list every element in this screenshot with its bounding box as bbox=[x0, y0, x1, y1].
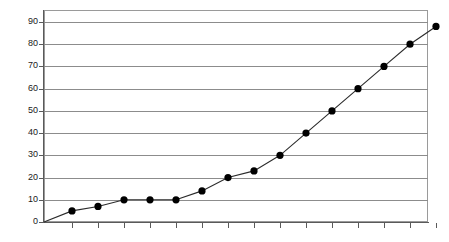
x-tick-mark-15 bbox=[436, 223, 437, 228]
x-tick-mark-5 bbox=[176, 223, 177, 228]
y-tick-label-0: 0 bbox=[12, 217, 38, 226]
y-axis-line bbox=[43, 10, 44, 223]
y-tick-label-50: 50 bbox=[12, 106, 38, 115]
x-tick-mark-2 bbox=[98, 223, 99, 228]
plot-area bbox=[44, 10, 428, 222]
x-tick-mark-8 bbox=[254, 223, 255, 228]
y-axis-tick-labels: 0102030405060708090 bbox=[8, 0, 38, 242]
x-tick-mark-7 bbox=[228, 223, 229, 228]
gridline-60 bbox=[44, 89, 428, 90]
gridline-50 bbox=[44, 111, 428, 112]
x-tick-mark-6 bbox=[202, 223, 203, 228]
x-tick-mark-4 bbox=[150, 223, 151, 228]
x-tick-mark-14 bbox=[410, 223, 411, 228]
y-tick-label-60: 60 bbox=[12, 84, 38, 93]
gridline-80 bbox=[44, 44, 428, 45]
gridline-10 bbox=[44, 200, 428, 201]
y-tick-label-90: 90 bbox=[12, 17, 38, 26]
x-tick-mark-3 bbox=[124, 223, 125, 228]
y-tick-label-70: 70 bbox=[12, 61, 38, 70]
gridline-70 bbox=[44, 66, 428, 67]
x-axis-line bbox=[43, 222, 429, 223]
x-tick-mark-12 bbox=[358, 223, 359, 228]
line-chart: 0102030405060708090 bbox=[0, 0, 449, 242]
x-tick-mark-1 bbox=[72, 223, 73, 228]
data-point-15 bbox=[432, 23, 439, 30]
y-tick-label-80: 80 bbox=[12, 39, 38, 48]
y-tick-label-10: 10 bbox=[12, 195, 38, 204]
gridline-20 bbox=[44, 178, 428, 179]
x-tick-mark-13 bbox=[384, 223, 385, 228]
y-tick-label-20: 20 bbox=[12, 173, 38, 182]
x-tick-mark-10 bbox=[306, 223, 307, 228]
gridline-40 bbox=[44, 133, 428, 134]
y-tick-label-30: 30 bbox=[12, 150, 38, 159]
y-tick-label-40: 40 bbox=[12, 128, 38, 137]
gridline-30 bbox=[44, 155, 428, 156]
gridline-90 bbox=[44, 22, 428, 23]
x-tick-mark-9 bbox=[280, 223, 281, 228]
x-tick-mark-11 bbox=[332, 223, 333, 228]
